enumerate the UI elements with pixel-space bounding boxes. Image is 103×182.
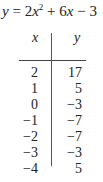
- table-cell-x: 0: [8, 97, 38, 113]
- equation: y = 2x2 + 6x − 3: [2, 3, 97, 20]
- eq-exponent: 2: [39, 2, 44, 12]
- eq-var2: x: [67, 3, 74, 19]
- eq-const: 3: [89, 3, 97, 19]
- eq-coef-b: 6: [59, 3, 67, 19]
- table-cell-y: 5: [52, 81, 82, 97]
- table-cell-y: 5: [52, 161, 82, 177]
- table-cell-x: 2: [8, 65, 38, 81]
- table-cell-x: −2: [8, 129, 38, 145]
- eq-equals: =: [12, 3, 20, 19]
- table-cell-x: −1: [8, 113, 38, 129]
- table-cell-x: −3: [8, 145, 38, 161]
- table-cell-y: −7: [52, 129, 82, 145]
- header-x: x: [32, 30, 38, 46]
- table-cell-y: −3: [52, 97, 82, 113]
- table-cell-y: 17: [52, 65, 82, 81]
- table-cell-x: 1: [8, 81, 38, 97]
- table-cell-y: −7: [52, 113, 82, 129]
- eq-minus: −: [77, 3, 85, 19]
- eq-plus: +: [47, 3, 55, 19]
- eq-lhs: y: [2, 3, 9, 19]
- table-cell-y: −3: [52, 145, 82, 161]
- header-y: y: [74, 30, 80, 46]
- table-cell-x: −4: [8, 161, 38, 177]
- header-divider: [19, 60, 86, 61]
- eq-var1: x: [32, 3, 39, 19]
